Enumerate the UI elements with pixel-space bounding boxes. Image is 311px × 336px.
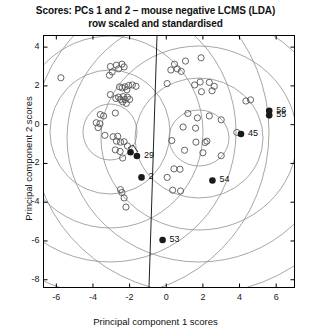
data-point-open [164,174,170,180]
data-point-label-54: 54 [219,174,229,184]
data-point-open [112,110,118,116]
data-point-label-53: 53 [170,234,180,244]
data-point-open [180,124,186,130]
data-point-open [170,187,176,193]
data-point-open [197,79,203,85]
contour-right-1 [169,110,229,166]
data-point-filled [266,112,273,119]
plot-canvas [0,0,311,336]
data-point-filled [209,177,216,184]
data-point-open [182,58,188,64]
data-point-filled [238,131,245,138]
data-point-open [121,139,127,145]
data-point-filled [138,174,145,181]
x-tick-label: 0 [154,292,178,302]
data-point-filled [127,149,134,156]
data-point-open [171,166,177,172]
x-tick-label: 2 [191,292,215,302]
lda-decision-boundary [149,36,157,288]
contour-right-5 [33,0,311,294]
x-tick-label: 4 [228,292,252,302]
data-point-open [193,139,199,145]
x-tick-label: -4 [81,292,105,302]
x-tick-label: 6 [264,292,288,302]
x-tick-label: -2 [118,292,142,302]
data-point-open [171,61,177,67]
data-point-open [177,166,183,172]
contour-group-right [33,0,311,294]
data-point-open [177,188,183,194]
data-point-open [168,67,174,73]
data-point-open [102,132,108,138]
scatter-plot-figure: Scores: PCs 1 and 2 – mouse negative LCM… [0,0,311,336]
data-point-open [185,110,191,116]
x-axis-label: Principal component 1 scores [0,316,311,327]
data-point-open [58,75,64,81]
data-point-open [181,147,187,153]
data-point-label-55: 55 [276,109,286,119]
data-point-open [218,117,224,123]
contour-left-3 [17,36,203,228]
y-tick-label: -8 [22,274,40,284]
data-point-open [124,143,130,149]
data-point-open [133,83,139,89]
data-point-open [194,115,200,121]
contour-left-5 [0,0,269,296]
x-tick-label: -6 [44,292,68,302]
data-point-open [218,153,224,159]
data-point-label-2: 2 [149,171,154,181]
data-point-open [129,82,135,88]
data-point-open [198,55,204,61]
data-point-open [123,204,129,210]
data-point-open [204,138,210,144]
y-tick-label: 4 [22,41,40,51]
data-point-filled [134,153,141,160]
contour-group-left [0,0,269,296]
data-point-label-45: 45 [248,128,258,138]
data-point-open [123,100,129,106]
y-axis-label: Principal component 2 scores [23,69,34,249]
data-point-filled [159,237,166,244]
data-point-open [206,113,212,119]
data-point-open [198,89,204,95]
data-point-open [192,125,198,131]
data-point-label-29: 29 [144,150,154,160]
